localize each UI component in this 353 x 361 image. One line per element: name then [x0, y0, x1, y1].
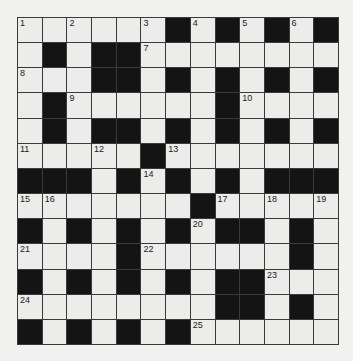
grid-cell[interactable]: 15	[18, 194, 42, 218]
grid-cell[interactable]: 16	[43, 194, 67, 218]
grid-cell[interactable]	[92, 244, 116, 268]
grid-cell[interactable]	[43, 244, 67, 268]
grid-cell[interactable]: 23	[265, 270, 289, 294]
grid-cell[interactable]	[191, 270, 215, 294]
grid-cell[interactable]	[166, 194, 190, 218]
grid-cell[interactable]	[92, 270, 116, 294]
grid-cell[interactable]	[117, 144, 141, 168]
grid-cell[interactable]	[43, 219, 67, 243]
grid-cell[interactable]: 14	[141, 169, 165, 193]
grid-cell[interactable]	[290, 270, 314, 294]
grid-cell[interactable]	[43, 295, 67, 319]
grid-cell[interactable]	[314, 43, 338, 67]
grid-cell[interactable]: 3	[141, 18, 165, 42]
grid-cell[interactable]	[314, 295, 338, 319]
grid-cell[interactable]	[290, 320, 314, 344]
grid-cell[interactable]	[290, 194, 314, 218]
grid-cell[interactable]	[290, 93, 314, 117]
grid-cell[interactable]	[18, 93, 42, 117]
grid-cell[interactable]	[92, 169, 116, 193]
grid-cell[interactable]	[216, 43, 240, 67]
grid-cell[interactable]	[216, 320, 240, 344]
grid-cell[interactable]	[240, 43, 264, 67]
grid-cell[interactable]	[240, 169, 264, 193]
grid-cell[interactable]	[314, 93, 338, 117]
grid-cell[interactable]	[166, 93, 190, 117]
grid-cell[interactable]	[240, 320, 264, 344]
grid-cell[interactable]: 4	[191, 18, 215, 42]
grid-cell[interactable]: 5	[240, 18, 264, 42]
grid-cell[interactable]	[43, 18, 67, 42]
grid-cell[interactable]	[290, 144, 314, 168]
grid-cell[interactable]: 20	[191, 219, 215, 243]
grid-cell[interactable]	[314, 320, 338, 344]
grid-cell[interactable]	[117, 194, 141, 218]
grid-cell[interactable]: 17	[216, 194, 240, 218]
grid-cell[interactable]: 24	[18, 295, 42, 319]
grid-cell[interactable]	[141, 194, 165, 218]
grid-cell[interactable]	[166, 43, 190, 67]
grid-cell[interactable]	[265, 144, 289, 168]
grid-cell[interactable]	[290, 43, 314, 67]
grid-cell[interactable]	[166, 244, 190, 268]
grid-cell[interactable]	[43, 320, 67, 344]
grid-cell[interactable]	[314, 219, 338, 243]
grid-cell[interactable]	[141, 270, 165, 294]
grid-cell[interactable]	[191, 169, 215, 193]
grid-cell[interactable]	[290, 68, 314, 92]
grid-cell[interactable]	[191, 43, 215, 67]
grid-cell[interactable]	[67, 68, 91, 92]
grid-cell[interactable]	[18, 119, 42, 143]
grid-cell[interactable]: 10	[240, 93, 264, 117]
grid-cell[interactable]	[67, 119, 91, 143]
grid-cell[interactable]	[92, 93, 116, 117]
grid-cell[interactable]	[265, 320, 289, 344]
grid-cell[interactable]	[314, 270, 338, 294]
grid-cell[interactable]	[216, 144, 240, 168]
grid-cell[interactable]: 8	[18, 68, 42, 92]
grid-cell[interactable]	[92, 18, 116, 42]
grid-cell[interactable]	[191, 119, 215, 143]
grid-cell[interactable]	[240, 144, 264, 168]
grid-cell[interactable]	[43, 144, 67, 168]
grid-cell[interactable]	[265, 244, 289, 268]
grid-cell[interactable]	[92, 295, 116, 319]
grid-cell[interactable]	[67, 194, 91, 218]
grid-cell[interactable]	[166, 295, 190, 319]
grid-cell[interactable]	[216, 244, 240, 268]
grid-cell[interactable]: 11	[18, 144, 42, 168]
grid-cell[interactable]	[191, 68, 215, 92]
grid-cell[interactable]: 2	[67, 18, 91, 42]
grid-cell[interactable]: 12	[92, 144, 116, 168]
grid-cell[interactable]	[117, 295, 141, 319]
grid-cell[interactable]	[92, 219, 116, 243]
grid-cell[interactable]	[141, 119, 165, 143]
grid-cell[interactable]	[265, 295, 289, 319]
grid-cell[interactable]	[43, 270, 67, 294]
grid-cell[interactable]	[240, 244, 264, 268]
grid-cell[interactable]	[265, 43, 289, 67]
grid-cell[interactable]	[240, 68, 264, 92]
grid-cell[interactable]: 18	[265, 194, 289, 218]
grid-cell[interactable]	[67, 244, 91, 268]
grid-cell[interactable]: 22	[141, 244, 165, 268]
grid-cell[interactable]	[92, 194, 116, 218]
grid-cell[interactable]: 9	[67, 93, 91, 117]
grid-cell[interactable]	[117, 18, 141, 42]
grid-cell[interactable]	[191, 93, 215, 117]
grid-cell[interactable]	[240, 194, 264, 218]
grid-cell[interactable]	[191, 244, 215, 268]
grid-cell[interactable]	[314, 244, 338, 268]
grid-cell[interactable]: 19	[314, 194, 338, 218]
grid-cell[interactable]: 13	[166, 144, 190, 168]
grid-cell[interactable]	[314, 144, 338, 168]
grid-cell[interactable]: 1	[18, 18, 42, 42]
grid-cell[interactable]: 6	[290, 18, 314, 42]
grid-cell[interactable]	[191, 144, 215, 168]
grid-cell[interactable]	[265, 93, 289, 117]
grid-cell[interactable]	[141, 93, 165, 117]
grid-cell[interactable]	[141, 68, 165, 92]
grid-cell[interactable]: 7	[141, 43, 165, 67]
grid-cell[interactable]	[18, 43, 42, 67]
grid-cell[interactable]	[265, 219, 289, 243]
